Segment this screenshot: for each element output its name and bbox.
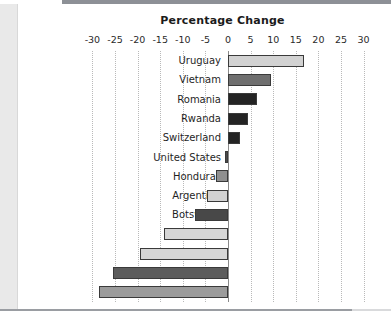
bar-benin bbox=[164, 228, 228, 240]
bar-honduras bbox=[216, 170, 228, 182]
x-tick-label-5: 5 bbox=[248, 34, 254, 45]
chart-row: Ivory Coast bbox=[18, 283, 391, 302]
bar-romania bbox=[228, 93, 257, 105]
category-label-switzerland: Switzerland bbox=[18, 128, 221, 147]
category-label-united-states: United States bbox=[18, 148, 221, 167]
plot-area: -30-25-20-15-10-5051015202530 UruguayVie… bbox=[18, 34, 391, 302]
bar-gambia bbox=[140, 248, 228, 260]
chart-panel: Percentage Change -30-25-20-15-10-505101… bbox=[18, 4, 391, 309]
x-tick-label-0: 0 bbox=[225, 34, 231, 45]
chart-row: Uruguay bbox=[18, 51, 391, 70]
x-axis-tick-labels: -30-25-20-15-10-5051015202530 bbox=[18, 34, 391, 50]
category-label-rwanda: Rwanda bbox=[18, 109, 221, 128]
plot-grid-and-bars: UruguayVietnamRomaniaRwandaSwitzerlandUn… bbox=[18, 51, 391, 302]
chart-row: Romania bbox=[18, 90, 391, 109]
x-tick-label-10: 10 bbox=[267, 34, 279, 45]
chart-row: Vietnam bbox=[18, 70, 391, 89]
bar-argentina bbox=[207, 190, 228, 202]
x-tick-label-20: 20 bbox=[312, 34, 324, 45]
chart-row: Botswana bbox=[18, 205, 391, 224]
chart-row: Gambia bbox=[18, 244, 391, 263]
category-label-botswana: Botswana bbox=[18, 205, 221, 224]
x-tick-label-neg25: -25 bbox=[107, 34, 123, 45]
x-tick-label-30: 30 bbox=[358, 34, 370, 45]
screenshot-root: Percentage Change -30-25-20-15-10-505101… bbox=[0, 0, 391, 325]
chart-row: Rwanda bbox=[18, 109, 391, 128]
x-tick-label-25: 25 bbox=[335, 34, 347, 45]
x-tick-label-neg20: -20 bbox=[130, 34, 146, 45]
bar-switzerland bbox=[228, 132, 240, 144]
chart-row: Switzerland bbox=[18, 128, 391, 147]
bottom-area bbox=[0, 311, 391, 325]
bar-cambodia bbox=[113, 267, 228, 279]
chart-row: Benin bbox=[18, 225, 391, 244]
chart-row: United States bbox=[18, 148, 391, 167]
category-label-uruguay: Uruguay bbox=[18, 51, 221, 70]
left-gutter bbox=[0, 4, 17, 309]
x-tick-label-neg5: -5 bbox=[201, 34, 210, 45]
bar-ivory-coast bbox=[99, 286, 228, 298]
bar-botswana bbox=[195, 209, 228, 221]
chart-row: Argentina bbox=[18, 186, 391, 205]
x-tick-label-neg15: -15 bbox=[152, 34, 168, 45]
bar-rwanda bbox=[228, 113, 248, 125]
category-label-argentina: Argentina bbox=[18, 186, 221, 205]
x-tick-label-15: 15 bbox=[290, 34, 302, 45]
bar-vietnam bbox=[228, 74, 271, 86]
category-label-vietnam: Vietnam bbox=[18, 70, 221, 89]
bar-united-states bbox=[225, 151, 228, 163]
x-tick-label-neg10: -10 bbox=[175, 34, 191, 45]
chart-row: Cambodia bbox=[18, 263, 391, 282]
category-label-honduras: Honduras bbox=[18, 167, 221, 186]
bar-uruguay bbox=[228, 55, 304, 67]
chart-row: Honduras bbox=[18, 167, 391, 186]
chart-title: Percentage Change bbox=[18, 14, 391, 27]
x-tick-label-neg30: -30 bbox=[85, 34, 101, 45]
category-label-romania: Romania bbox=[18, 90, 221, 109]
